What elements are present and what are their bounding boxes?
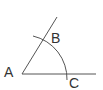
compass-arc bbox=[33, 36, 67, 80]
label-c: C bbox=[69, 75, 79, 90]
angle-diagram: A B C bbox=[0, 0, 103, 90]
label-b: B bbox=[51, 30, 60, 46]
label-a: A bbox=[4, 64, 14, 80]
